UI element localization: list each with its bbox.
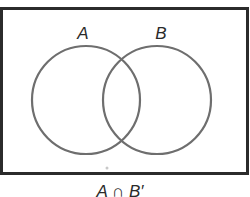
venn-diagram: A B A ∩ B′ — [0, 0, 250, 197]
venn-svg: A B A ∩ B′ — [0, 0, 250, 197]
set-b-label: B — [155, 24, 166, 43]
set-a-label: A — [76, 24, 88, 43]
diagram-caption: A ∩ B′ — [96, 182, 145, 197]
speck-dot — [106, 167, 109, 170]
